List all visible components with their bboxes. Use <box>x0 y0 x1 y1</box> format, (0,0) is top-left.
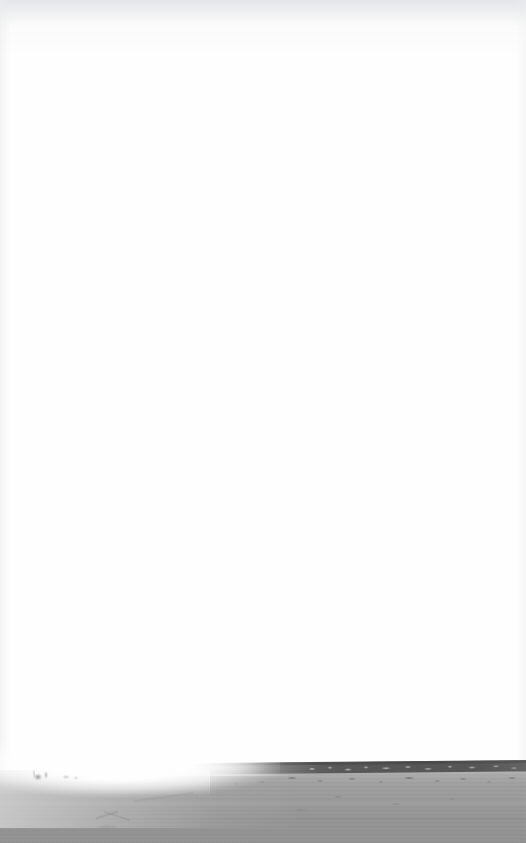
foreground-smudge <box>90 822 124 832</box>
sky-left-vignette <box>0 0 10 790</box>
foreground-track-mark-3 <box>134 786 194 808</box>
sky-top-tint <box>0 0 526 26</box>
sky-right-vignette <box>516 0 526 790</box>
far-left-object <box>28 769 62 781</box>
landscape-photograph: Minimalist landscape: a blown-out featur… <box>0 0 526 843</box>
far-left-object-secondary <box>58 772 84 781</box>
sky-region <box>0 0 526 790</box>
